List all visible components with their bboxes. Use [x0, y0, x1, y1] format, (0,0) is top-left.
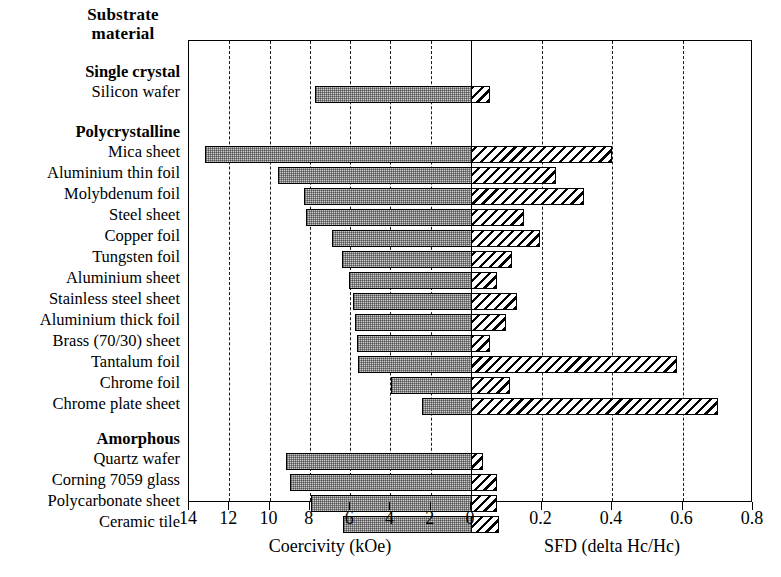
bar-row [189, 209, 751, 226]
bar-row [189, 398, 751, 415]
gridline-coercivity-2 [431, 41, 432, 501]
bar-row [189, 335, 751, 352]
sfd-bar [471, 86, 490, 103]
gridline-coercivity-4 [390, 41, 391, 501]
bar-row [189, 86, 751, 103]
coercivity-bar [332, 230, 473, 247]
axis-titles: Coercivity (kOe) SFD (delta Hc/Hc) [0, 535, 781, 563]
sfd-bar [471, 398, 718, 415]
coercivity-bar [358, 356, 472, 373]
coercivity-bar [290, 474, 473, 491]
bar-row [189, 453, 751, 470]
group-label: Amorphous [97, 431, 180, 447]
tick-label-coercivity-8: 8 [304, 508, 313, 528]
sfd-bar [471, 293, 517, 310]
bar-row [189, 377, 751, 394]
category-label: Copper foil [104, 228, 180, 244]
tick-label-coercivity-2: 2 [425, 508, 434, 528]
sfd-bar [471, 314, 506, 331]
zero-axis-line [471, 41, 472, 501]
coercivity-bar [286, 453, 473, 470]
tick-label-coercivity-0: 0 [466, 508, 475, 528]
left-axis-title: Coercivity (kOe) [269, 535, 391, 557]
bar-row [189, 167, 751, 184]
title-line-1: Substrate [58, 5, 188, 24]
bar-row [189, 356, 751, 373]
gridline-sfd-0.6 [683, 41, 684, 501]
bar-row [189, 293, 751, 310]
tick-label-sfd-0.6: 0.6 [670, 508, 693, 528]
category-label: Chrome plate sheet [53, 396, 180, 412]
tick-label-coercivity-14: 14 [179, 508, 197, 528]
gridline-coercivity-12 [229, 41, 230, 501]
tick-label-sfd-0.2: 0.2 [529, 508, 552, 528]
bar-row [189, 188, 751, 205]
coercivity-bar [357, 335, 472, 352]
coercivity-bar [278, 167, 473, 184]
chart-figure: Substrate material Single crystalSilicon… [0, 0, 781, 577]
category-label: Mica sheet [108, 144, 180, 160]
gridline-coercivity-10 [270, 41, 271, 501]
bar-row [189, 314, 751, 331]
coercivity-bar [391, 377, 472, 394]
category-label: Aluminium sheet [66, 270, 180, 286]
coercivity-bar [353, 293, 472, 310]
sfd-bar [471, 272, 497, 289]
gridline-coercivity-6 [350, 41, 351, 501]
coercivity-bar [342, 251, 473, 268]
sfd-bar [471, 356, 677, 373]
axis-tick-labels: 141210864200.20.40.60.8 [0, 508, 781, 532]
bar-row [189, 146, 751, 163]
sfd-bar [471, 453, 483, 470]
bar-row [189, 251, 751, 268]
category-label: Silicon wafer [92, 84, 180, 100]
category-label: Steel sheet [109, 207, 180, 223]
bar-row [189, 272, 751, 289]
tick-label-coercivity-10: 10 [260, 508, 278, 528]
bar-row [189, 474, 751, 491]
category-label: Tantalum foil [91, 354, 180, 370]
coercivity-bar [349, 272, 472, 289]
category-label: Tungsten foil [92, 249, 180, 265]
category-label: Stainless steel sheet [49, 291, 180, 307]
gridline-sfd-0.4 [612, 41, 613, 501]
tick-label-sfd-0.4: 0.4 [600, 508, 623, 528]
bar-row [189, 230, 751, 247]
tick-label-sfd-0.8: 0.8 [741, 508, 764, 528]
sfd-bar [471, 230, 540, 247]
plot-area [188, 40, 752, 502]
sfd-bar [471, 474, 497, 491]
coercivity-bar [315, 86, 473, 103]
category-label: Aluminium thick foil [40, 312, 180, 328]
group-label: Single crystal [85, 64, 180, 80]
right-axis-title: SFD (delta Hc/Hc) [544, 535, 680, 557]
category-label: Polycarbonate sheet [48, 493, 180, 509]
category-label-column: Single crystalSilicon waferPolycrystalli… [0, 40, 186, 502]
group-label: Polycrystalline [76, 124, 180, 140]
tick-label-coercivity-4: 4 [385, 508, 394, 528]
category-label: Aluminium thin foil [47, 165, 180, 181]
tick-label-coercivity-6: 6 [345, 508, 354, 528]
gridline-sfd-0.2 [542, 41, 543, 501]
coercivity-bar [304, 188, 473, 205]
coercivity-bar [422, 398, 473, 415]
sfd-bar [471, 146, 612, 163]
category-label: Chrome foil [100, 375, 180, 391]
category-label: Brass (70/30) sheet [53, 333, 180, 349]
sfd-bar [471, 377, 510, 394]
coercivity-bar [355, 314, 472, 331]
sfd-bar [471, 188, 584, 205]
coercivity-bar [205, 146, 472, 163]
category-label: Corning 7059 glass [52, 472, 180, 488]
sfd-bar [471, 335, 490, 352]
sfd-bar [471, 209, 524, 226]
category-label: Quartz wafer [93, 451, 180, 467]
sfd-bar [471, 251, 512, 268]
gridline-coercivity-8 [310, 41, 311, 501]
category-label: Molybdenum foil [64, 186, 180, 202]
page-title: Substrate material [58, 5, 188, 43]
tick-label-coercivity-12: 12 [219, 508, 237, 528]
coercivity-bar [306, 209, 473, 226]
sfd-bar [471, 167, 556, 184]
